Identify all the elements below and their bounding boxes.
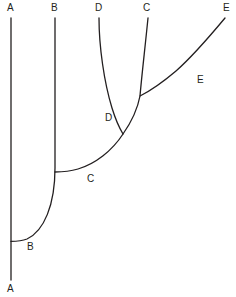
node-label-b: B bbox=[27, 242, 34, 252]
root-label-a: A bbox=[7, 284, 14, 294]
tip-label-b-top: B bbox=[51, 3, 58, 13]
tip-label-d-top: D bbox=[95, 3, 102, 13]
tip-label-e-top: E bbox=[223, 3, 230, 13]
phylogenetic-tree-diagram: A B D C E E D C B A bbox=[0, 0, 236, 297]
node-label-d: D bbox=[105, 113, 112, 123]
lineage-e-path bbox=[140, 18, 225, 96]
tree-svg bbox=[0, 0, 236, 297]
tip-label-a-top: A bbox=[7, 3, 14, 13]
node-label-e: E bbox=[197, 75, 204, 85]
tip-label-c-top: C bbox=[143, 3, 150, 13]
lineage-c-path bbox=[55, 18, 148, 172]
lineage-b-path bbox=[11, 18, 55, 241]
node-label-c: C bbox=[87, 174, 94, 184]
